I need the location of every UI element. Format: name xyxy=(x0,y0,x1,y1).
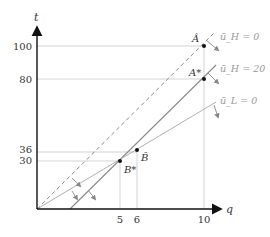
label-a-star: A* xyxy=(188,67,201,78)
point-a-star xyxy=(202,77,206,81)
y-tick-100: 100 xyxy=(13,41,32,52)
curve-ul0 xyxy=(37,102,216,209)
point-b-hat xyxy=(135,148,139,152)
y-tick-36: 36 xyxy=(19,144,32,155)
x-axis-label: q xyxy=(226,203,233,216)
curve-uh20 xyxy=(70,65,216,209)
label-b-hat: B̂ xyxy=(140,152,148,163)
y-axis-label: t xyxy=(34,11,39,24)
y-tick-80: 80 xyxy=(19,74,32,85)
curve-uh0 xyxy=(37,33,214,209)
label-uh20: ū_H = 20 xyxy=(220,63,265,75)
label-uh0: ū_H = 0 xyxy=(220,31,259,43)
x-tick-6: 6 xyxy=(134,214,140,225)
x-tick-5: 5 xyxy=(117,214,123,225)
label-b-star: B* xyxy=(123,164,136,175)
label-ul0: ū_L = 0 xyxy=(220,95,257,107)
label-a-hat: Â xyxy=(191,33,199,44)
x-tick-10: 10 xyxy=(198,214,211,225)
point-a-hat xyxy=(202,44,206,48)
point-b-star xyxy=(118,159,122,163)
chart: t q 100 80 36 30 5 6 10 Â A* B* B̂ ū_H =… xyxy=(0,0,270,237)
y-tick-30: 30 xyxy=(19,155,32,166)
